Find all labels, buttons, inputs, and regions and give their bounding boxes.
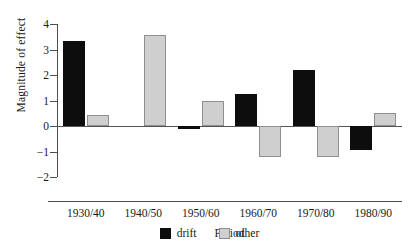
y-axis-line [57, 24, 58, 177]
y-axis-tick-label: 1 [23, 96, 49, 106]
bar-drift-1980-90 [350, 126, 372, 150]
legend-item-drift: drift [160, 227, 197, 239]
y-axis-tick [50, 177, 57, 178]
gray-square-swatch [219, 228, 230, 239]
bar-drift-1970-80 [293, 70, 315, 126]
y-axis-tick-label: 0 [23, 121, 49, 131]
bar-drift-1950-60 [178, 126, 200, 129]
bar-other-1950-60 [202, 101, 224, 127]
y-axis-tick-label: −1 [23, 147, 49, 157]
bar-other-1940-50 [144, 35, 166, 126]
bar-other-1970-80 [317, 126, 339, 157]
bar-drift-1960-70 [235, 94, 257, 126]
y-axis-tick [50, 152, 57, 153]
x-axis-line [48, 201, 402, 202]
y-axis-tick [50, 50, 57, 51]
legend-label: drift [177, 227, 197, 239]
y-axis-tick [50, 75, 57, 76]
bar-drift-1930-40 [63, 41, 85, 126]
bar-other-1980-90 [374, 113, 396, 126]
y-axis-tick [50, 24, 57, 25]
black-square-swatch [160, 228, 171, 239]
y-axis-tick [50, 101, 57, 102]
bar-other-1930-40 [87, 115, 109, 126]
legend-items: driftother [0, 224, 419, 242]
y-axis-tick-label: −2 [23, 172, 49, 182]
legend-label: other [236, 227, 260, 239]
y-axis-tick [50, 126, 57, 127]
x-axis-tick-label: 1980/90 [338, 207, 408, 219]
bar-other-1960-70 [259, 126, 281, 157]
y-axis-tick-label: 3 [23, 45, 49, 55]
plot-area: 43210−1−2 1930/401940/501950/601960/7019… [57, 24, 402, 177]
y-axis-tick-label: 4 [23, 19, 49, 29]
bar-chart-figure: Magnitude of effect 43210−1−2 1930/40194… [0, 0, 419, 252]
y-axis-tick-label: 2 [23, 70, 49, 80]
legend-item-other: other [219, 227, 260, 239]
